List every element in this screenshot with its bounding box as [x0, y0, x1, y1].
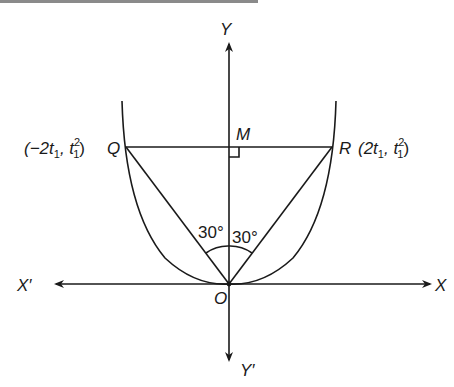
q-coord-prefix: (−2t [24, 139, 55, 158]
point-q-label: Q [107, 139, 120, 158]
point-m-label: M [236, 125, 251, 144]
point-r-label: R [339, 139, 351, 158]
angle-right-label: 30° [232, 228, 258, 247]
parabola-diagram: Y Y′ X′ X O M (−2t1, t21) Q R (2t1, t21)… [0, 0, 454, 387]
angle-arc-right [229, 246, 252, 253]
y-axis-label: Y [220, 20, 233, 39]
q-coord-suffix: ) [79, 139, 85, 158]
angle-left-label: 30° [198, 223, 224, 242]
angle-arc-left [206, 246, 229, 253]
y-neg-axis-label: Y′ [240, 361, 255, 380]
point-r-coords: (2t1, t21) [358, 136, 409, 160]
x-axis-label: X [434, 276, 447, 295]
origin-label: O [214, 289, 227, 308]
origin-point [227, 282, 232, 287]
x-neg-axis-label: X′ [16, 276, 32, 295]
r-coord-suffix: ) [403, 139, 409, 158]
r-coord-prefix: (2t [358, 139, 379, 158]
point-q-coords: (−2t1, t21) [24, 136, 85, 160]
right-angle-marker [229, 147, 239, 157]
